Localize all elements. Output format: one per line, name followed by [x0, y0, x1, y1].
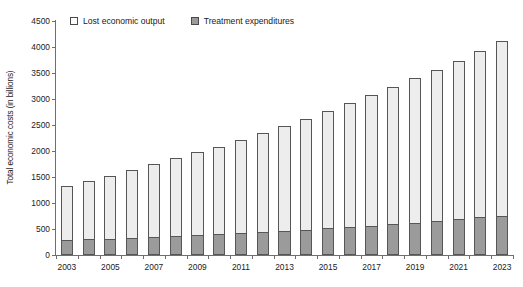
y-axis-tick-mark	[52, 177, 56, 178]
bar-segment-lost-economic-output	[496, 41, 508, 216]
bar-stack	[257, 133, 269, 255]
bar-stack	[278, 126, 290, 255]
x-axis-tick-mark	[491, 255, 492, 259]
y-axis-label: Total economic costs (in billions)	[2, 0, 18, 255]
bar-segment-treatment-expenditures	[300, 230, 312, 255]
bar-segment-treatment-expenditures	[257, 232, 269, 255]
bar-segment-lost-economic-output	[300, 119, 312, 229]
bar-segment-lost-economic-output	[148, 164, 160, 237]
bar-stack	[148, 164, 160, 255]
x-axis-tick-mark	[56, 255, 57, 259]
chart-legend: Lost economic outputTreatment expenditur…	[70, 16, 294, 26]
bar-segment-lost-economic-output	[322, 111, 334, 228]
bar-stack	[170, 158, 182, 255]
bar-segment-treatment-expenditures	[474, 217, 486, 255]
x-axis-tick-mark	[143, 255, 144, 259]
bar-segment-treatment-expenditures	[409, 223, 421, 255]
x-axis-tick-mark	[295, 255, 296, 259]
bar-stack	[83, 181, 95, 255]
bar-segment-treatment-expenditures	[344, 227, 356, 255]
bar-segment-lost-economic-output	[170, 158, 182, 236]
bar-stack	[431, 70, 443, 255]
bar-segment-lost-economic-output	[409, 78, 421, 222]
bar-stack	[409, 78, 421, 255]
bar-segment-treatment-expenditures	[191, 235, 203, 255]
x-axis-tick-mark	[361, 255, 362, 259]
bar-segment-treatment-expenditures	[322, 228, 334, 255]
x-axis-tick-mark	[165, 255, 166, 259]
x-axis-tick-mark	[100, 255, 101, 259]
x-axis-tick-label: 2023	[493, 262, 512, 272]
x-axis-tick-mark	[121, 255, 122, 259]
x-axis-tick-label: 2019	[406, 262, 425, 272]
legend-item: Treatment expenditures	[191, 16, 294, 26]
bar-stack	[344, 103, 356, 255]
bar-segment-lost-economic-output	[213, 147, 225, 234]
x-axis-tick-mark	[448, 255, 449, 259]
x-axis-tick-mark	[426, 255, 427, 259]
x-axis-tick-mark	[339, 255, 340, 259]
x-axis-tick-mark	[382, 255, 383, 259]
bar-segment-treatment-expenditures	[496, 216, 508, 255]
bar-segment-lost-economic-output	[257, 133, 269, 232]
legend-swatch-icon	[70, 17, 78, 25]
y-axis-tick-mark	[52, 21, 56, 22]
bar-segment-lost-economic-output	[278, 126, 290, 231]
bar-segment-treatment-expenditures	[387, 224, 399, 255]
bar-stack	[474, 51, 486, 255]
y-axis-tick-mark	[52, 151, 56, 152]
legend-label: Lost economic output	[83, 16, 165, 26]
x-axis-tick-mark	[404, 255, 405, 259]
x-axis-line	[55, 255, 514, 256]
bar-stack	[387, 87, 399, 255]
bar-stack	[104, 176, 116, 255]
bar-segment-lost-economic-output	[235, 140, 247, 233]
bar-segment-treatment-expenditures	[431, 221, 443, 255]
bar-segment-lost-economic-output	[474, 51, 486, 217]
bar-segment-treatment-expenditures	[83, 239, 95, 255]
bar-segment-treatment-expenditures	[170, 236, 182, 255]
bar-segment-lost-economic-output	[365, 95, 377, 226]
bar-segment-treatment-expenditures	[126, 238, 138, 255]
bar-segment-treatment-expenditures	[365, 226, 377, 255]
legend-label: Treatment expenditures	[204, 16, 294, 26]
bar-stack	[322, 111, 334, 255]
x-axis-tick-label: 2003	[58, 262, 77, 272]
bar-segment-treatment-expenditures	[213, 234, 225, 255]
x-axis-tick-label: 2009	[188, 262, 207, 272]
x-axis-tick-label: 2015	[319, 262, 338, 272]
bar-stack	[453, 61, 465, 255]
bar-segment-treatment-expenditures	[453, 219, 465, 255]
x-axis-tick-mark	[252, 255, 253, 259]
x-axis-tick-mark	[187, 255, 188, 259]
bar-segment-treatment-expenditures	[104, 239, 116, 255]
x-axis-tick-mark	[230, 255, 231, 259]
x-axis-tick-label: 2017	[362, 262, 381, 272]
bar-stack	[191, 152, 203, 255]
plot-area: 0500100015002000250030003500400045002003…	[56, 21, 513, 255]
x-axis-tick-mark	[78, 255, 79, 259]
x-axis-tick-mark	[274, 255, 275, 259]
bar-segment-treatment-expenditures	[148, 237, 160, 255]
y-axis-tick-mark	[52, 47, 56, 48]
y-axis-label-text: Total economic costs (in billions)	[6, 71, 15, 185]
bar-stack	[213, 147, 225, 255]
y-axis-tick-mark	[52, 203, 56, 204]
bar-segment-lost-economic-output	[61, 186, 73, 240]
bar-segment-lost-economic-output	[431, 70, 443, 221]
x-axis-tick-label: 2007	[145, 262, 164, 272]
chart-figure: Total economic costs (in billions) 05001…	[0, 0, 523, 287]
bar-segment-treatment-expenditures	[278, 231, 290, 255]
bar-stack	[365, 95, 377, 255]
x-axis-tick-mark	[469, 255, 470, 259]
bar-segment-treatment-expenditures	[235, 233, 247, 255]
bar-segment-lost-economic-output	[191, 152, 203, 235]
bar-stack	[496, 41, 508, 255]
bar-segment-lost-economic-output	[453, 61, 465, 219]
bar-segment-lost-economic-output	[344, 103, 356, 227]
bar-segment-lost-economic-output	[387, 87, 399, 224]
bar-stack	[61, 186, 73, 255]
x-axis-tick-label: 2011	[232, 262, 250, 272]
x-axis-tick-label: 2021	[449, 262, 468, 272]
x-axis-tick-mark	[208, 255, 209, 259]
